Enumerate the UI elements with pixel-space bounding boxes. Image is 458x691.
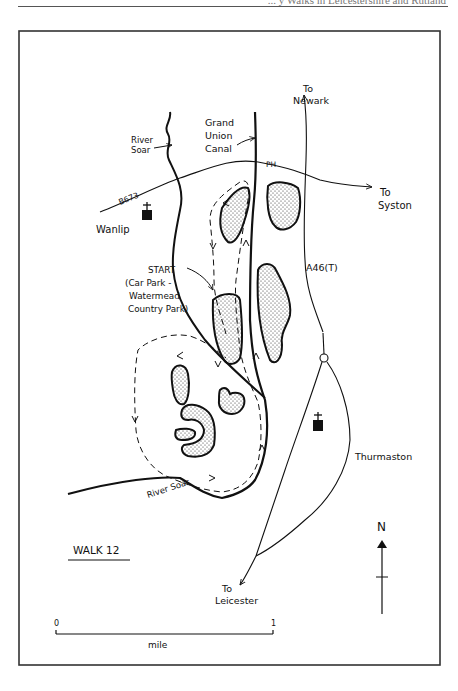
lake	[219, 388, 244, 414]
label-river-soar-south: River Soar	[146, 477, 191, 500]
lake	[175, 429, 195, 440]
scale-end: 1	[271, 619, 276, 628]
north-label: N	[377, 520, 386, 534]
label-start: START (Car Park - Watermead Country Park…	[125, 265, 188, 314]
walk-map: River Soar Grand Union Canal To Newark P…	[0, 0, 458, 691]
label-wanlip: Wanlip	[96, 224, 130, 235]
route-arrow-icon	[243, 240, 249, 246]
walk-title: WALK 12	[73, 544, 119, 556]
leader-start	[187, 268, 213, 290]
route-arrow-icon	[210, 243, 216, 249]
label-grand-union-canal: Grand Union Canal	[205, 117, 237, 154]
road-a46-link	[323, 333, 324, 354]
route-arrow-icon	[215, 361, 221, 367]
label-to-syston: To Syston	[378, 187, 412, 211]
scale-start: 0	[54, 619, 59, 628]
label-river-soar-north: River Soar	[131, 135, 156, 155]
church-icon-thurmaston	[313, 412, 323, 431]
north-arrow-icon	[376, 540, 388, 614]
scale-unit: mile	[148, 640, 168, 650]
route-arrow-icon	[177, 352, 183, 359]
label-a46: A46(T)	[306, 262, 338, 273]
road-east-to-leicester	[256, 362, 350, 556]
roundabout	[320, 354, 328, 362]
leader-canal	[237, 138, 255, 145]
label-thurmaston: Thurmaston	[354, 451, 412, 462]
scale-bar	[56, 630, 273, 634]
route-arrow-icon	[209, 475, 215, 481]
label-b673: B673	[117, 191, 140, 207]
lake	[258, 264, 291, 362]
label-pub: PH	[266, 160, 276, 169]
label-to-leicester: To Leicester	[215, 583, 258, 606]
road-a46-north	[304, 95, 323, 332]
label-to-newark: To Newark	[293, 83, 329, 106]
lake	[172, 365, 189, 404]
church-icon-wanlip	[142, 202, 152, 220]
lake	[267, 182, 300, 229]
lake	[220, 188, 249, 243]
